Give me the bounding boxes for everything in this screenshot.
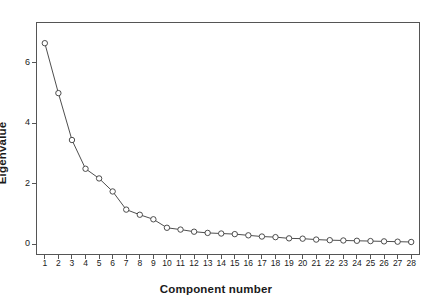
x-axis-tick-mark (126, 255, 127, 259)
scree-plot: Eigenvalue 0246 123456789101112131415161… (0, 0, 432, 306)
x-axis-tick-mark (329, 255, 330, 259)
data-point-marker (56, 90, 61, 95)
x-axis-tick-mark (343, 255, 344, 259)
x-axis-tick-mark (139, 255, 140, 259)
y-axis-tick-label: 6 (4, 58, 30, 67)
data-point-marker (327, 237, 332, 242)
data-point-marker (381, 239, 386, 244)
x-axis-tick-mark (316, 255, 317, 259)
y-axis-tick-mark (32, 244, 36, 245)
x-axis-tick-mark (397, 255, 398, 259)
data-point-marker (219, 231, 224, 236)
data-point-marker (341, 238, 346, 243)
y-axis-tick-mark (32, 123, 36, 124)
x-axis-tick-mark (112, 255, 113, 259)
y-axis-tick-label: 2 (4, 179, 30, 188)
x-axis-tick-mark (153, 255, 154, 259)
y-axis-tick-labels: 0246 (0, 0, 30, 306)
data-point-marker (314, 237, 319, 242)
data-point-marker (137, 212, 142, 217)
x-axis-tick-mark (207, 255, 208, 259)
x-axis-tick-labels: 1234567891011121314151617181920212223242… (36, 258, 420, 280)
data-point-marker (110, 189, 115, 194)
y-axis-tick-label: 4 (4, 118, 30, 127)
x-axis-tick-mark (302, 255, 303, 259)
data-point-marker (178, 227, 183, 232)
data-point-marker (96, 176, 101, 181)
x-axis-tick-mark (370, 255, 371, 259)
x-axis-tick-mark (289, 255, 290, 259)
data-point-marker (286, 236, 291, 241)
x-axis-tick-mark (384, 255, 385, 259)
data-point-marker (300, 236, 305, 241)
x-axis-tick-mark (411, 255, 412, 259)
data-point-marker (42, 40, 47, 45)
x-axis-tick-mark (194, 255, 195, 259)
x-axis-tick-mark (99, 255, 100, 259)
data-point-marker (259, 234, 264, 239)
x-axis-tick-mark (356, 255, 357, 259)
data-line (45, 43, 411, 242)
x-axis-tick-label: 28 (403, 258, 419, 268)
x-axis-tick-mark (71, 255, 72, 259)
x-axis-tick-mark (275, 255, 276, 259)
data-point-marker (246, 233, 251, 238)
data-point-marker (205, 230, 210, 235)
data-point-marker (408, 239, 413, 244)
x-axis-tick-mark (180, 255, 181, 259)
x-axis-tick-mark (44, 255, 45, 259)
x-axis-tick-mark (234, 255, 235, 259)
data-point-marker (83, 166, 88, 171)
y-axis-tick-mark (32, 183, 36, 184)
data-point-marker (151, 217, 156, 222)
data-point-marker (232, 231, 237, 236)
y-axis-tick-mark (32, 62, 36, 63)
x-axis-tick-mark (85, 255, 86, 259)
data-point-marker (124, 207, 129, 212)
data-point-marker (191, 229, 196, 234)
x-axis-tick-mark (248, 255, 249, 259)
x-axis-tick-mark (261, 255, 262, 259)
data-point-marker (368, 238, 373, 243)
data-point-marker (273, 234, 278, 239)
data-point-marker (395, 239, 400, 244)
x-axis-tick-mark (166, 255, 167, 259)
data-point-marker (69, 137, 74, 142)
plot-area (36, 22, 420, 255)
x-axis-tick-mark (58, 255, 59, 259)
y-axis-tick-label: 0 (4, 239, 30, 248)
x-axis-tick-mark (221, 255, 222, 259)
data-point-marker (354, 238, 359, 243)
data-point-marker (164, 225, 169, 230)
x-axis-title: Component number (0, 283, 432, 295)
